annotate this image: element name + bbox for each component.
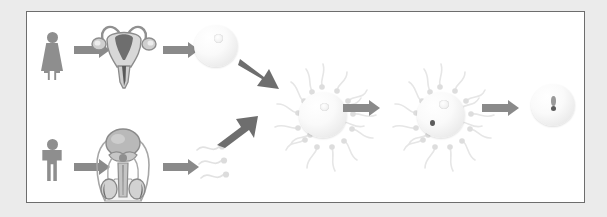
arrow-shaft <box>163 163 188 171</box>
arrow-sperm-to-fertilization <box>215 112 261 148</box>
female-legs <box>44 71 60 80</box>
arrow-shaft <box>163 46 188 54</box>
arrow-stage2-to-zygote <box>482 99 520 117</box>
ovum-icon <box>194 25 238 67</box>
female-figure-icon <box>37 32 67 82</box>
arrow-head <box>508 100 519 116</box>
male-body <box>41 150 63 181</box>
arrow-shaft <box>482 104 508 112</box>
female-head <box>47 32 58 43</box>
uterus-icon <box>85 18 163 90</box>
penetrating-sperm-head <box>430 120 435 126</box>
ovum-nucleus <box>214 34 223 43</box>
zygote-nucleus-spot <box>551 106 556 111</box>
ovum-nucleus <box>439 100 449 109</box>
fertilized-zygote-icon <box>531 84 575 126</box>
female-body <box>41 43 63 71</box>
ovum-nucleus <box>320 103 329 111</box>
arrow-anatomy-to-sperm <box>163 158 199 176</box>
male-head <box>47 139 58 150</box>
diagram-canvas <box>0 0 607 217</box>
ovum-stage-2 <box>417 92 465 138</box>
diagram-panel <box>26 11 585 203</box>
ovum-stage-1 <box>299 92 347 138</box>
male-anatomy-icon <box>85 125 161 201</box>
zygote-pronucleus <box>551 96 556 106</box>
arrow-shaft <box>343 104 369 112</box>
male-figure-icon <box>37 139 67 187</box>
